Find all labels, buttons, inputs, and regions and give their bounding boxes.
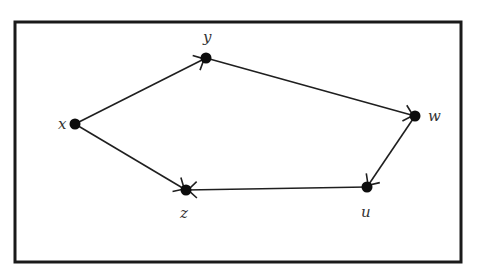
nodes-group xyxy=(70,53,421,196)
node-label-x: x xyxy=(58,115,67,133)
node-x xyxy=(70,119,81,130)
node-label-z: z xyxy=(179,204,188,222)
node-z xyxy=(181,185,192,196)
edge-u-z xyxy=(186,187,367,190)
node-label-u: u xyxy=(361,203,371,221)
node-label-y: y xyxy=(202,28,212,46)
edge-x-z xyxy=(75,124,186,190)
labels-group: xywuz xyxy=(58,28,441,222)
graph-diagram: xywuz xyxy=(0,0,482,273)
edge-w-u xyxy=(367,116,415,187)
node-y xyxy=(201,53,212,64)
node-w xyxy=(410,111,421,122)
edges-group xyxy=(75,56,415,198)
edge-y-w xyxy=(206,58,415,116)
edge-x-y xyxy=(75,58,206,124)
node-u xyxy=(362,182,373,193)
node-label-w: w xyxy=(428,107,441,125)
diagram-frame xyxy=(15,22,461,262)
